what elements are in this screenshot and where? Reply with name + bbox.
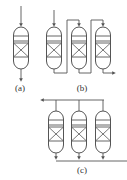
- label-b: (b): [77, 84, 88, 93]
- label-c: (c): [77, 166, 87, 175]
- label-a: (a): [15, 84, 25, 93]
- config-a-single-reactor: [14, 6, 29, 80]
- config-c-parallel-reactors: [42, 100, 127, 161]
- config-b-series-reactors: [47, 10, 115, 73]
